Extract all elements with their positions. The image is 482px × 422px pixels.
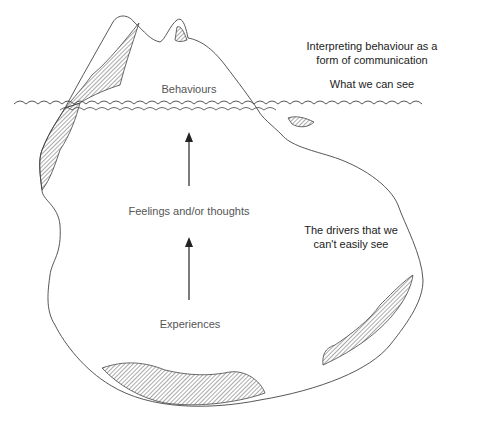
heading-line-2: form of communication [292,53,452,67]
arrow-feelings-to-behaviours [185,132,193,186]
above-water-caption: What we can see [312,78,432,90]
hatched-region-bottom [102,363,265,405]
iceberg-diagram: Behaviours Feelings and/or thoughts Expe… [0,0,482,422]
hatched-region-right-pocket [288,117,314,127]
hatched-region-notch [175,27,187,42]
hatched-region-left-peak [65,23,139,108]
below-water-line-2: can't easily see [286,237,416,251]
feelings-label: Feelings and/or thoughts [124,205,254,217]
behaviours-label: Behaviours [144,83,234,95]
below-water-caption: The drivers that we can't easily see [286,223,416,251]
experiences-label: Experiences [140,318,240,330]
heading-caption: Interpreting behaviour as a form of comm… [292,39,452,67]
hatched-region-right-side [323,275,413,365]
below-water-line-1: The drivers that we [286,223,416,237]
waterline-lower [60,108,276,111]
hatched-region-left-waterline [40,103,80,190]
heading-line-1: Interpreting behaviour as a [292,39,452,53]
arrow-experiences-to-feelings [185,237,193,300]
